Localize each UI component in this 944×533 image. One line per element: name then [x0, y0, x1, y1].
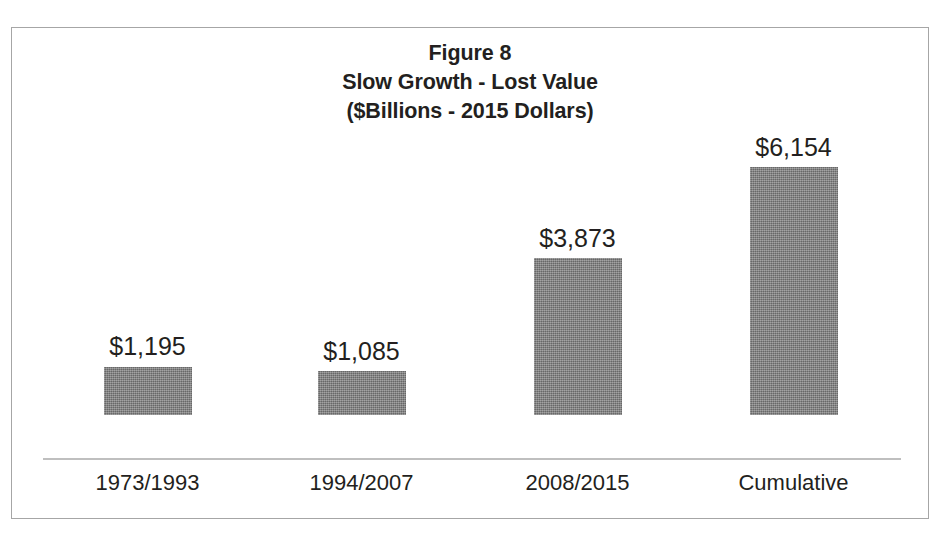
category-label-cumulative: Cumulative [738, 470, 848, 496]
bar-1973-1993[interactable] [104, 367, 192, 415]
bar-value-label-1994-2007: $1,085 [323, 337, 399, 366]
bar-group-cumulative: $6,154 Cumulative [689, 28, 898, 518]
bar-value-label-2008-2015: $3,873 [539, 224, 615, 253]
figure-frame: Figure 8 Slow Growth - Lost Value ($Bill… [11, 27, 929, 519]
bar-2008-2015[interactable] [534, 258, 622, 415]
bar-group-2008-2015: $3,873 2008/2015 [473, 28, 682, 518]
bar-1994-2007[interactable] [318, 371, 406, 415]
plot-area: $1,195 1973/1993 $1,085 1994/2007 $3,873… [12, 28, 928, 518]
bar-value-label-cumulative: $6,154 [755, 133, 831, 162]
bar-value-label-1973-1993: $1,195 [109, 332, 185, 361]
category-label-1994-2007: 1994/2007 [310, 470, 414, 496]
bar-group-1973-1993: $1,195 1973/1993 [43, 28, 252, 518]
category-label-2008-2015: 2008/2015 [526, 470, 630, 496]
bar-group-1994-2007: $1,085 1994/2007 [257, 28, 466, 518]
bar-cumulative[interactable] [750, 167, 838, 415]
category-label-1973-1993: 1973/1993 [96, 470, 200, 496]
